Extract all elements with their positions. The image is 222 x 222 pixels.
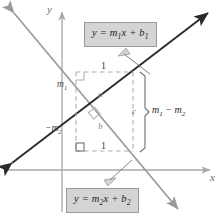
measure-bracket-c xyxy=(140,72,149,152)
fall-label-m2: −m2 xyxy=(45,124,62,135)
eq2-sub2: 2 xyxy=(127,198,131,207)
right-angle-marker-bottom xyxy=(76,143,84,151)
bracket-expr-minus: − m xyxy=(163,104,182,115)
hypotenuse-upper-label-a: a xyxy=(98,90,103,99)
equation-callout-line1: y = m1x + b1 xyxy=(84,22,157,47)
y-axis-label: y xyxy=(47,4,52,15)
eq1-sub2: 1 xyxy=(145,32,149,41)
fall-label-sub: 2 xyxy=(58,128,61,135)
eq2-part1: y = m xyxy=(74,193,100,204)
rise-label-m1: m1 xyxy=(57,80,67,91)
run-bottom-label: 1 xyxy=(101,141,106,151)
bracket-expression-m1-minus-m2: m1 − m2 xyxy=(152,105,185,118)
run-top-label: 1 xyxy=(101,61,106,71)
eq2-part2: x + b xyxy=(104,193,127,204)
right-angle-marker-top xyxy=(76,72,84,80)
rise-label-text: m xyxy=(57,79,64,89)
callout-leader-bottom xyxy=(104,160,132,186)
rise-label-sub: 1 xyxy=(64,84,67,91)
eq1-part1: y = m xyxy=(92,27,118,38)
bracket-label-c: c xyxy=(132,107,136,116)
figure-canvas: y x y = m1x + b1 y = m2x + b2 1 1 m1 −m2… xyxy=(0,0,222,222)
x-axis-label: x xyxy=(210,172,215,183)
hypotenuse-lower-label-b: b xyxy=(98,122,103,131)
eq1-part2: x + b xyxy=(122,27,145,38)
fall-label-text: −m xyxy=(45,123,58,133)
bracket-expr-sub2: 2 xyxy=(182,110,186,118)
equation-callout-line2: y = m2x + b2 xyxy=(66,188,139,213)
